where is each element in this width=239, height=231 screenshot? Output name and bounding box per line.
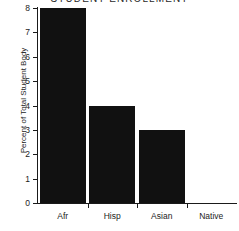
y-tick-label-0: 0 (18, 199, 30, 208)
x-tick-label-hisp: Hisp (88, 212, 138, 221)
y-tick-0 (33, 203, 38, 204)
y-tick-7 (33, 32, 38, 33)
y-tick-label-2: 2 (18, 150, 30, 159)
y-tick-4 (33, 106, 38, 107)
bar-afr (40, 8, 86, 203)
y-tick-6 (33, 57, 38, 58)
x-tick-1 (88, 203, 89, 208)
bar-chart: STUDENT ENROLLMENT Percent of Total Stud… (0, 0, 239, 231)
bar-asian (139, 130, 185, 203)
x-tick-2 (137, 203, 138, 208)
x-tick-label-afr: Afr (38, 212, 88, 221)
y-tick-1 (33, 179, 38, 180)
y-tick-label-5: 5 (18, 77, 30, 86)
x-tick-label-asian: Asian (137, 212, 187, 221)
x-tick-label-native: Native (187, 212, 237, 221)
y-tick-label-1: 1 (18, 175, 30, 184)
bar-hisp (89, 106, 135, 204)
y-tick-3 (33, 130, 38, 131)
y-tick-8 (33, 8, 38, 9)
x-tick-3 (187, 203, 188, 208)
y-tick-label-3: 3 (18, 126, 30, 135)
chart-title: STUDENT ENROLLMENT (0, 0, 239, 4)
y-tick-label-8: 8 (18, 4, 30, 13)
y-tick-label-6: 6 (18, 53, 30, 62)
y-tick-label-7: 7 (18, 28, 30, 37)
y-tick-5 (33, 81, 38, 82)
y-tick-label-4: 4 (18, 102, 30, 111)
y-tick-2 (33, 154, 38, 155)
